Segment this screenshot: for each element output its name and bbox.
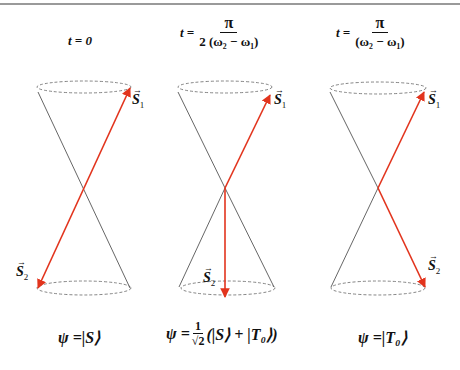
vector-label-s2: →S2 bbox=[203, 270, 215, 288]
cone-edge-lower-left bbox=[179, 188, 225, 287]
ket-singlet: |S⟩ bbox=[82, 328, 100, 347]
cone-edge-lower-right bbox=[225, 188, 274, 287]
vector-label-s2: →S2 bbox=[16, 264, 28, 282]
state-label-0: ψ = |S⟩ bbox=[58, 328, 100, 347]
normalization-fraction: 1 √2 bbox=[192, 320, 205, 348]
ket-superposition: (|S⟩ + |T₀⟩) bbox=[206, 325, 277, 344]
vector-label-s2: →S2 bbox=[428, 258, 440, 276]
top-precession-ellipse bbox=[330, 82, 426, 94]
psi-lhs: ψ = bbox=[166, 325, 190, 343]
cone-edge-upper bbox=[330, 92, 378, 188]
psi-lhs: ψ = bbox=[358, 329, 382, 347]
ket-triplet-zero: |T₀⟩ bbox=[382, 328, 407, 347]
cone-edge-lower bbox=[331, 188, 378, 287]
state-label-2: ψ = |T₀⟩ bbox=[358, 328, 407, 347]
spin-vector-s2-arrow bbox=[378, 188, 425, 287]
state-label-1: ψ = 1 √2 (|S⟩ + |T₀⟩) bbox=[166, 320, 277, 348]
psi-lhs: ψ = bbox=[58, 329, 82, 347]
cone-panel-1 bbox=[178, 81, 275, 297]
top-precession-ellipse bbox=[37, 81, 131, 93]
vector-label-s1: →S1 bbox=[428, 92, 440, 110]
bottom-precession-ellipse bbox=[331, 281, 425, 295]
spin-vector-s1-arrow bbox=[378, 92, 424, 188]
cone-panel-2 bbox=[330, 82, 426, 295]
spin-vector-s1-arrow bbox=[225, 95, 270, 188]
vector-label-s1: →S1 bbox=[132, 92, 144, 110]
cone-panel-0 bbox=[37, 81, 131, 295]
cone-edge-upper bbox=[178, 92, 225, 188]
bottom-precession-ellipse bbox=[37, 281, 131, 295]
bottom-precession-ellipse bbox=[181, 281, 275, 295]
top-precession-ellipse bbox=[178, 81, 272, 93]
cone-diagram bbox=[0, 0, 460, 370]
vector-label-s1: →S1 bbox=[274, 92, 286, 110]
